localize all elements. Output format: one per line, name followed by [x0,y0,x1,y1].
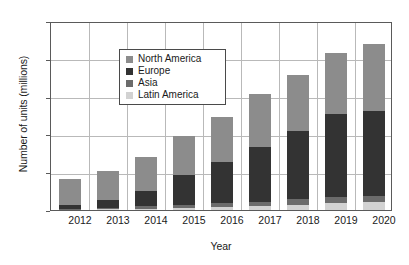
y-tick-mark [46,211,50,212]
bar-group [249,94,271,210]
legend-item-north-america: North America [120,53,225,65]
legend-item-asia: Asia [120,77,225,89]
bar-segment-asia [249,202,271,207]
gridline-vertical [317,23,318,210]
bar-segment-north-america [211,117,233,162]
bar-segment-north-america [97,171,119,200]
gridline-vertical [279,23,280,210]
bar-group [211,117,233,210]
legend-item-europe: Europe [120,65,225,77]
bar-segment-asia [97,208,119,210]
bar-segment-asia [135,206,157,208]
legend-label: North America [138,54,201,64]
bar-segment-latin-america [135,209,157,211]
legend-swatch-latin-america [126,92,133,99]
bar-group [173,136,195,210]
bar-segment-north-america [135,157,157,191]
bar-segment-latin-america [249,206,271,210]
plot-area: North America Europe Asia Latin America [50,22,392,211]
bar-segment-europe [97,200,119,208]
bar-segment-north-america [363,44,385,111]
gridline-vertical [355,23,356,210]
bar-segment-europe [363,111,385,196]
bar-segment-asia [173,205,195,208]
bar-segment-north-america [249,94,271,146]
x-axis-title: Year [50,240,392,252]
legend-swatch-north-america [126,56,133,63]
legend-label: Europe [138,66,170,76]
bar-segment-asia [287,199,309,204]
bar-segment-latin-america [287,205,309,210]
bar-segment-north-america [287,75,309,132]
bar-segment-asia [59,209,81,210]
bar-group [97,171,119,210]
bar-segment-latin-america [173,208,195,210]
bar-group [325,53,347,210]
bar-segment-latin-america [97,209,119,210]
bar-group [363,44,385,210]
bar-segment-north-america [325,53,347,114]
bar-segment-latin-america [59,209,81,210]
bar-chart: Number of units (millions) 250 200 150 1… [0,0,409,265]
legend-item-latin-america: Latin America [120,89,225,101]
bar-segment-latin-america [363,202,385,210]
bar-segment-europe [287,131,309,199]
bar-segment-asia [325,197,347,203]
legend-label: Asia [138,78,157,88]
legend: North America Europe Asia Latin America [119,49,226,105]
bar-group [135,157,157,210]
bar-group [287,75,309,210]
y-axis-title: Number of units (millions) [17,34,29,194]
bar-group [59,179,81,210]
bar-segment-north-america [59,179,81,205]
bar-segment-asia [363,196,385,203]
x-tick-label: 2020 [361,214,407,226]
gridline-vertical [89,23,90,210]
bar-segment-latin-america [325,203,347,210]
bar-segment-europe [325,114,347,197]
legend-swatch-europe [126,68,133,75]
bar-segment-europe [59,205,81,208]
legend-swatch-asia [126,80,133,87]
bar-segment-europe [173,175,195,204]
gridline-vertical [241,23,242,210]
bar-segment-latin-america [211,207,233,210]
legend-label: Latin America [138,90,199,100]
bar-segment-europe [249,147,271,202]
bar-segment-asia [211,203,233,207]
bar-segment-north-america [173,136,195,175]
bar-segment-europe [211,162,233,204]
bar-segment-europe [135,191,157,206]
